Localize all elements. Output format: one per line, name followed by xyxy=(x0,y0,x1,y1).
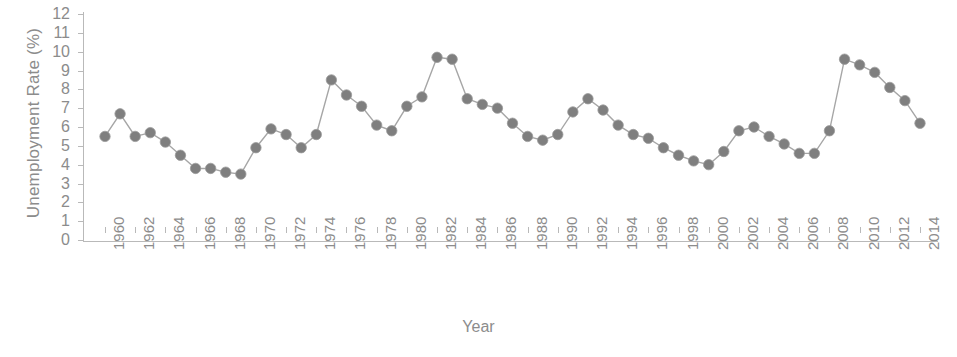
data-point-marker: 1993: 6.9% xyxy=(598,105,608,115)
x-axis-tick-label: 1960 xyxy=(111,217,126,250)
x-axis-tick-label: 2006 xyxy=(805,217,820,250)
data-point-marker: 1976: 7.7% xyxy=(341,90,351,100)
y-axis-tick-mark xyxy=(78,127,83,128)
data-point-marker: 1968: 3.6% xyxy=(221,167,231,177)
x-axis-tick-label: 1962 xyxy=(141,217,156,250)
data-point-marker: 1962: 5.5% xyxy=(130,131,140,141)
data-point-marker: 1990: 5.6% xyxy=(553,129,563,139)
data-point-marker: 1980: 7.1% xyxy=(402,101,412,111)
data-point-marker: 1961: 6.7% xyxy=(115,109,125,119)
x-axis-tick-label: 1992 xyxy=(594,217,609,250)
x-axis-tick-label: 2010 xyxy=(866,217,881,250)
x-axis-tick-mark xyxy=(346,227,347,233)
x-axis-tick-label: 1964 xyxy=(171,217,186,250)
data-point-marker: 1979: 5.8% xyxy=(387,126,397,136)
data-point-marker: 1975: 8.5% xyxy=(326,75,336,85)
y-axis-tick-mark xyxy=(78,52,83,53)
y-axis-tick-label: 6 xyxy=(30,119,70,135)
x-axis-tick-label: 1998 xyxy=(685,217,700,250)
data-point-marker: 1997: 4.9% xyxy=(658,143,668,153)
data-point-marker: 1965: 4.5% xyxy=(175,150,185,160)
data-point-marker: 1981: 7.6% xyxy=(417,92,427,102)
x-axis-title: Year xyxy=(0,318,957,336)
x-axis-tick-mark xyxy=(829,227,830,233)
data-point-marker: 1989: 5.3% xyxy=(537,135,547,145)
data-point-marker: 2005: 5.1% xyxy=(779,139,789,149)
data-point-marker: 1978: 6.1% xyxy=(371,120,381,130)
unemployment-series: 1960: 5.5%1961: 6.7%1962: 5.5%1963: 5.7%… xyxy=(83,14,938,246)
y-axis-tick-label: 1 xyxy=(30,213,70,229)
data-point-marker: 1992: 7.5% xyxy=(583,94,593,104)
x-axis-tick-label: 2012 xyxy=(896,217,911,250)
x-axis-tick-mark xyxy=(377,227,378,233)
data-point-marker: 2000: 4% xyxy=(704,159,714,169)
x-axis-tick-label: 2000 xyxy=(715,217,730,250)
x-axis-tick-label: 1978 xyxy=(383,217,398,250)
data-point-marker: 2012: 8.1% xyxy=(885,82,895,92)
x-axis-tick-mark xyxy=(196,227,197,233)
x-axis-tick-label: 2014 xyxy=(926,217,941,250)
y-axis-tick-mark xyxy=(78,165,83,166)
data-point-marker: 2003: 6% xyxy=(749,122,759,132)
y-axis-tick-mark xyxy=(78,202,83,203)
data-point-marker: 1991: 6.8% xyxy=(568,107,578,117)
x-axis-tick-mark xyxy=(920,227,921,233)
x-axis-tick-label: 1972 xyxy=(292,217,307,250)
x-axis-tick-mark xyxy=(497,227,498,233)
y-axis-tick-label: 5 xyxy=(30,138,70,154)
data-point-marker: 1986: 7% xyxy=(492,103,502,113)
y-axis-tick-mark xyxy=(78,146,83,147)
data-point-marker: 1983: 9.6% xyxy=(447,54,457,64)
x-axis-tick-mark xyxy=(407,227,408,233)
x-axis-tick-mark xyxy=(528,227,529,233)
x-axis-tick-mark xyxy=(437,227,438,233)
x-axis-tick-label: 1986 xyxy=(503,217,518,250)
y-axis-tick-label: 3 xyxy=(30,176,70,192)
data-point-marker: 2001: 4.7% xyxy=(719,146,729,156)
data-point-marker: 1987: 6.2% xyxy=(507,118,517,128)
x-axis-tick-mark xyxy=(316,227,317,233)
y-axis-tick-label: 9 xyxy=(30,63,70,79)
data-point-marker: 2013: 7.4% xyxy=(900,95,910,105)
data-point-marker: 1972: 5.6% xyxy=(281,129,291,139)
data-point-marker: 1971: 5.9% xyxy=(266,124,276,134)
x-axis-tick-label: 1988 xyxy=(534,217,549,250)
x-axis-tick-mark xyxy=(588,227,589,233)
data-point-marker: 1973: 4.9% xyxy=(296,143,306,153)
x-axis-tick-mark xyxy=(739,227,740,233)
data-point-marker: 1977: 7.1% xyxy=(356,101,366,111)
x-axis-tick-mark xyxy=(467,227,468,233)
data-point-marker: 2010: 9.3% xyxy=(854,60,864,70)
x-axis-tick-label: 1974 xyxy=(322,217,337,250)
y-axis-tick-mark xyxy=(78,221,83,222)
x-axis-tick-mark xyxy=(860,227,861,233)
x-axis-tick-mark xyxy=(165,227,166,233)
data-point-marker: 1994: 6.1% xyxy=(613,120,623,130)
data-point-marker: 1966: 3.8% xyxy=(190,163,200,173)
y-axis-tick-mark xyxy=(78,240,83,241)
data-point-marker: 1970: 4.9% xyxy=(251,143,261,153)
y-axis-tick-label: 8 xyxy=(30,81,70,97)
y-axis-tick-mark xyxy=(78,14,83,15)
y-axis-tick-label: 12 xyxy=(30,6,70,22)
x-axis-tick-mark xyxy=(648,227,649,233)
x-axis-tick-label: 2004 xyxy=(775,217,790,250)
data-point-marker: 1984: 7.5% xyxy=(462,94,472,104)
x-axis-tick-mark xyxy=(135,227,136,233)
x-axis-tick-label: 1980 xyxy=(413,217,428,250)
y-axis-tick-mark xyxy=(78,33,83,34)
data-point-marker: 1969: 3.5% xyxy=(236,169,246,179)
x-axis-tick-mark xyxy=(105,227,106,233)
data-point-marker: 1995: 5.6% xyxy=(628,129,638,139)
data-point-marker: 1999: 4.2% xyxy=(688,156,698,166)
y-axis-tick-label: 10 xyxy=(30,44,70,60)
data-point-marker: 1998: 4.5% xyxy=(673,150,683,160)
x-axis-tick-label: 1970 xyxy=(262,217,277,250)
y-axis-tick-mark xyxy=(78,108,83,109)
data-point-marker: 2009: 9.6% xyxy=(839,54,849,64)
data-point-marker: 2007: 4.6% xyxy=(809,148,819,158)
x-axis-tick-label: 1996 xyxy=(654,217,669,250)
x-axis-tick-label: 1982 xyxy=(443,217,458,250)
plot-area: 1960: 5.5%1961: 6.7%1962: 5.5%1963: 5.7%… xyxy=(83,14,938,240)
x-axis-tick-label: 1966 xyxy=(202,217,217,250)
